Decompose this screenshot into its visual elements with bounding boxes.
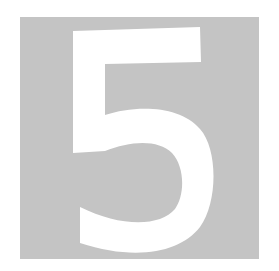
digit-five-glyph — [20, 17, 259, 259]
number-tile: 5 — [20, 17, 259, 259]
digit-label: 5 — [20, 259, 21, 260]
